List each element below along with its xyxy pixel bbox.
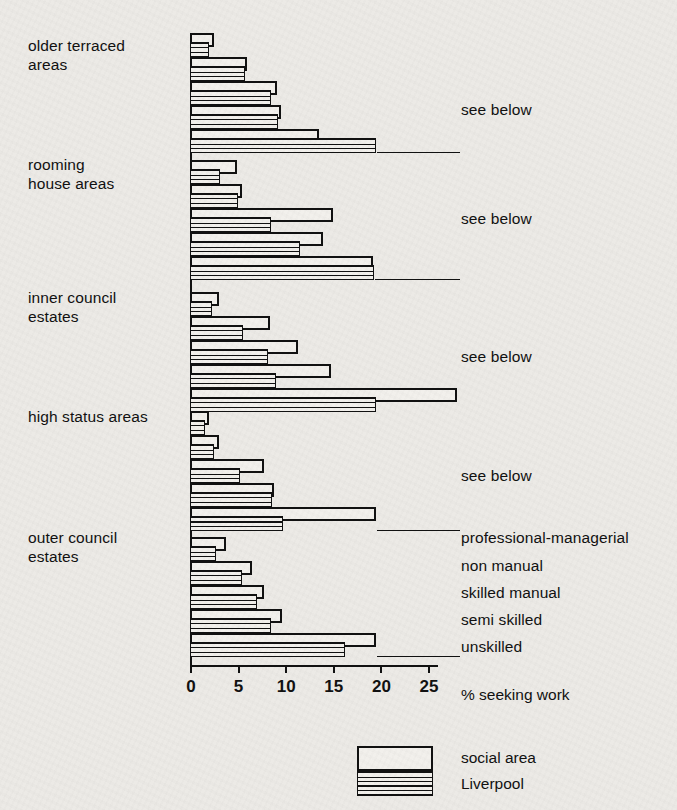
group-divider-rule	[377, 152, 460, 153]
bar-liverpool	[190, 193, 238, 208]
annotation-see-below-3: see below	[461, 348, 532, 366]
bar-liverpool	[190, 241, 300, 256]
bar-liverpool	[190, 618, 271, 633]
x-tick-10	[285, 665, 287, 673]
annotation-see-below-4: see below	[461, 467, 532, 485]
bar-liverpool	[190, 594, 257, 609]
bar-liverpool	[190, 138, 376, 153]
category-label-rooming-house-areas: rooming house areas	[28, 155, 114, 193]
bar-liverpool	[190, 468, 240, 483]
bar-liverpool	[190, 420, 205, 435]
x-tick-label-10: 10	[271, 677, 301, 697]
class-label-semi-skilled: semi skilled	[461, 610, 542, 629]
x-axis-line	[190, 665, 438, 667]
annotation-see-below-2: see below	[461, 210, 532, 228]
bar-liverpool	[190, 570, 242, 585]
x-tick-label-15: 15	[319, 677, 349, 697]
x-tick-label-0: 0	[176, 677, 206, 697]
bar-liverpool	[190, 325, 243, 340]
category-label-inner-council-estates: inner council estates	[28, 288, 116, 326]
legend-swatch-liverpool	[357, 771, 433, 796]
legend-label-liverpool: Liverpool	[461, 775, 524, 793]
bar-liverpool	[190, 516, 283, 531]
bar-liverpool	[190, 373, 276, 388]
x-tick-15	[333, 665, 335, 673]
class-label-professional-managerial: professional-managerial	[461, 528, 629, 547]
bar-liverpool	[190, 492, 272, 507]
x-tick-25	[428, 665, 430, 673]
group-divider-rule	[375, 279, 460, 280]
bar-liverpool	[190, 169, 220, 184]
bar-liverpool	[190, 114, 278, 129]
bar-liverpool	[190, 444, 214, 459]
category-label-high-status-areas: high status areas	[28, 407, 148, 426]
legend-label-social-area: social area	[461, 749, 536, 767]
group-divider-rule	[377, 530, 460, 531]
bar-liverpool	[190, 66, 245, 81]
bar-liverpool	[190, 42, 209, 57]
bar-liverpool	[190, 301, 212, 316]
category-label-outer-council-estates: outer council estates	[28, 528, 117, 566]
group-divider-rule	[377, 656, 460, 657]
class-label-non-manual: non manual	[461, 556, 543, 575]
bar-liverpool	[190, 397, 376, 412]
bar-liverpool	[190, 546, 216, 561]
chart-root: older terraced areas rooming house areas…	[0, 0, 677, 810]
annotation-see-below-1: see below	[461, 101, 532, 119]
class-label-skilled-manual: skilled manual	[461, 583, 561, 602]
x-axis-title: % seeking work	[461, 686, 570, 704]
x-tick-5	[238, 665, 240, 673]
bar-liverpool	[190, 90, 271, 105]
x-tick-label-5: 5	[224, 677, 254, 697]
x-tick-20	[380, 665, 382, 673]
bar-liverpool	[190, 349, 268, 364]
x-tick-label-25: 25	[414, 677, 444, 697]
category-label-older-terraced-areas: older terraced areas	[28, 36, 125, 74]
class-label-unskilled: unskilled	[461, 637, 522, 656]
bar-liverpool	[190, 642, 345, 657]
bar-liverpool	[190, 265, 374, 280]
bar-liverpool	[190, 217, 271, 232]
x-tick-label-20: 20	[366, 677, 396, 697]
x-tick-0	[190, 665, 192, 673]
legend-swatch-social-area	[357, 746, 433, 771]
